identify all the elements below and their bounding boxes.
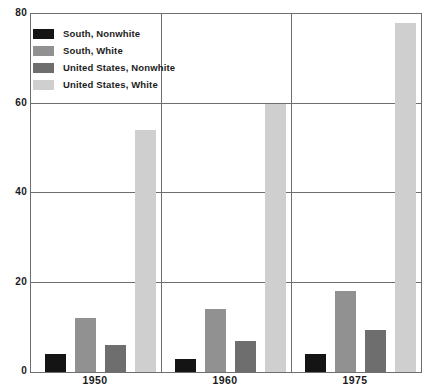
legend-item-label: South, White <box>63 45 123 56</box>
bar <box>205 309 226 372</box>
y-tick-label-80: 80 <box>5 8 27 18</box>
bar <box>75 318 96 372</box>
chart-legend: South, NonwhiteSouth, WhiteUnited States… <box>33 26 183 94</box>
legend-item-label: South, Nonwhite <box>63 28 140 39</box>
legend-swatch-icon <box>33 80 54 90</box>
bar <box>175 359 196 372</box>
x-tick-label-1975: 1975 <box>290 374 420 387</box>
x-axis: 195019601975 <box>30 374 422 390</box>
legend-item-label: United States, White <box>63 79 158 90</box>
bar <box>305 354 326 372</box>
y-tick-label-0: 0 <box>5 366 27 376</box>
legend-swatch-icon <box>33 46 54 56</box>
bar <box>395 23 416 372</box>
bar <box>45 354 66 372</box>
y-tick-label-40: 40 <box>5 187 27 197</box>
bar <box>135 130 156 372</box>
panel-divider-2 <box>291 14 292 372</box>
legend-item-label: United States, Nonwhite <box>63 62 175 73</box>
y-tick-label-60: 60 <box>5 98 27 108</box>
gridline-60 <box>31 103 421 104</box>
gridline-20 <box>31 282 421 283</box>
legend-item: South, White <box>33 43 183 58</box>
legend-item: South, Nonwhite <box>33 26 183 41</box>
x-tick-label-1960: 1960 <box>160 374 290 387</box>
x-tick-label-1950: 1950 <box>30 374 160 387</box>
gridline-40 <box>31 192 421 193</box>
legend-item: United States, Nonwhite <box>33 60 183 75</box>
legend-item: United States, White <box>33 77 183 92</box>
legend-swatch-icon <box>33 29 54 39</box>
bar <box>105 345 126 372</box>
legend-swatch-icon <box>33 63 54 73</box>
bar-chart: 020406080 195019601975 South, NonwhiteSo… <box>0 0 431 390</box>
bar <box>235 341 256 372</box>
bar <box>335 291 356 372</box>
y-axis: 020406080 <box>0 0 27 390</box>
y-tick-label-20: 20 <box>5 277 27 287</box>
bar <box>365 330 386 373</box>
bar <box>265 104 286 373</box>
